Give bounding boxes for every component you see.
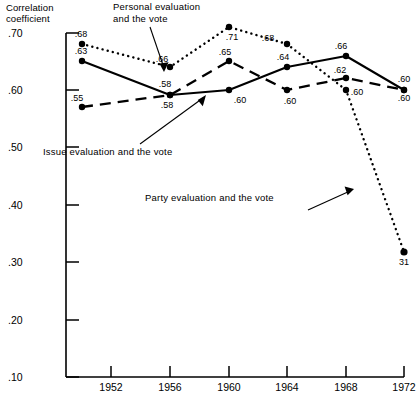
y-tick-label: .50 (8, 141, 23, 153)
data-point-label: .68 (75, 29, 88, 39)
data-point (167, 92, 173, 98)
annotation-leader-line (308, 191, 350, 210)
annotation-issue-evaluation: Issue evaluation and the vote (43, 95, 206, 157)
data-point-label: .60 (284, 96, 297, 106)
data-point (226, 87, 232, 93)
x-tick-label: 1964 (275, 381, 299, 393)
data-point-label: .71 (226, 32, 239, 42)
data-point-label: .58 (159, 79, 172, 89)
y-tick-label: .20 (8, 314, 23, 326)
y-axis-ticks (66, 33, 79, 377)
data-point-label: .60 (234, 95, 247, 105)
annotation-label-line1: Personal evaluation (113, 1, 200, 12)
x-axis-ticks (111, 366, 404, 377)
annotation-party-evaluation: Party evaluation and the vote (145, 187, 354, 211)
data-point-label: .64 (277, 52, 290, 62)
annotation-label-line1: Party evaluation and the vote (145, 192, 274, 203)
y-axis-tick-labels: .70 .60 .50 .40 .30 .20 .10 (8, 27, 23, 383)
data-point (167, 64, 173, 70)
data-point-label: .63 (75, 46, 88, 56)
y-tick-label: .60 (8, 84, 23, 96)
x-tick-label: 1968 (334, 381, 358, 393)
x-tick-label: 1972 (392, 381, 416, 393)
data-point (284, 41, 290, 47)
y-tick-label: .10 (8, 371, 23, 383)
annotation-label-line1: Issue evaluation and the vote (43, 146, 172, 157)
data-point (343, 53, 349, 59)
data-point (226, 24, 232, 30)
annotation-arrowhead (345, 187, 354, 196)
data-point (343, 75, 349, 81)
data-point-label: .62 (334, 65, 347, 75)
axis-lines (66, 33, 404, 377)
y-axis-title-line2: coefficient (6, 13, 50, 24)
data-point (343, 87, 349, 93)
data-point-label: .58 (161, 100, 174, 110)
data-point-label: .68 (262, 33, 275, 43)
data-point-label: .65 (219, 47, 232, 57)
x-axis-tick-labels: 1952 1956 1960 1964 1968 1972 (99, 381, 416, 393)
y-axis-title-line1: Correlation (6, 2, 54, 13)
data-point (79, 104, 85, 110)
data-point-label: .60 (351, 87, 364, 97)
annotation-label-line2: and the vote (113, 13, 168, 24)
data-point-label: .66 (335, 41, 348, 51)
y-tick-label: .30 (8, 256, 23, 268)
data-point (284, 64, 290, 70)
data-point (226, 58, 232, 64)
data-point (79, 58, 85, 64)
data-point-label: .55 (71, 93, 84, 103)
data-point-label: 31 (399, 257, 409, 267)
data-point (284, 87, 290, 93)
chart-figure: Correlation coefficient .70 .60 .50 .40 … (0, 0, 419, 402)
data-point-label: .60 (398, 93, 411, 103)
y-tick-label: .40 (8, 199, 23, 211)
x-tick-label: 1960 (217, 381, 241, 393)
x-tick-label: 1952 (99, 381, 123, 393)
data-point-label: .60 (398, 74, 411, 84)
x-tick-label: 1956 (158, 381, 182, 393)
y-tick-label: .70 (8, 27, 23, 39)
annotation-arrowhead (198, 95, 206, 106)
data-point (400, 248, 407, 255)
correlation-coefficient-line-chart: Correlation coefficient .70 .60 .50 .40 … (0, 0, 419, 402)
